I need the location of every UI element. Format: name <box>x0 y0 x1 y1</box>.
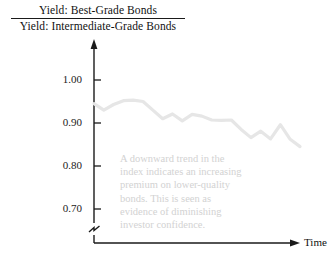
annotation-line: evidence of diminishing <box>120 205 280 218</box>
chart-annotation: A downward trend in the index indicates … <box>120 152 280 231</box>
annotation-line: premium on lower-quality <box>120 178 280 191</box>
axis-break-icon <box>89 223 100 235</box>
annotation-line: investor confidence. <box>120 218 280 231</box>
annotation-line: A downward trend in the <box>120 152 280 165</box>
x-axis-label: Time <box>304 236 327 248</box>
x-axis-arrowhead-icon <box>290 240 300 247</box>
yield-ratio-line-series <box>94 100 300 146</box>
annotation-line: bonds. This is seen as <box>120 192 280 205</box>
bond-yield-ratio-figure: Yield: Best-Grade Bonds Yield: Intermedi… <box>0 0 336 265</box>
y-axis-arrowhead-icon <box>91 39 98 49</box>
annotation-line: index indicates an increasing <box>120 165 280 178</box>
